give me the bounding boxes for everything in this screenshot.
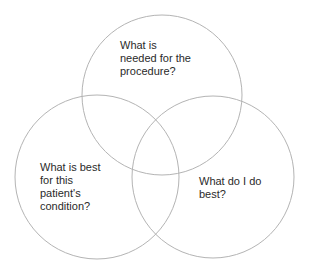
label-procedure-needs: What is needed for the procedure? <box>120 39 230 78</box>
label-my-strengths: What do I do best? <box>199 175 279 201</box>
label-patient-condition: What is best for this patient's conditio… <box>40 161 120 213</box>
